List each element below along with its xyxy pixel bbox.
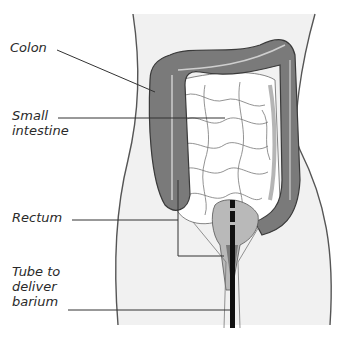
label-tube: Tube to deliver barium [12,264,60,309]
label-rectum: Rectum [12,210,62,225]
barium-tube [230,200,235,328]
label-small-intestine: Small intestine [12,108,69,138]
label-colon: Colon [10,40,47,55]
